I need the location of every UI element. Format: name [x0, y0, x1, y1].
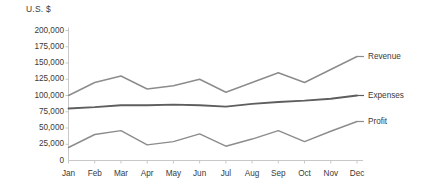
- line-chart: U.S. $ 025,00050,00075,000100,000125,000…: [0, 0, 425, 194]
- series-lines: [69, 57, 365, 148]
- axis-tick-marks: [66, 31, 358, 164]
- plot-area: [0, 0, 425, 194]
- series-line-profit: [69, 122, 358, 148]
- series-line-revenue: [69, 57, 358, 96]
- series-line-expenses: [69, 96, 358, 109]
- series-label-revenue: Revenue: [368, 52, 401, 60]
- series-label-expenses: Expenses: [368, 91, 404, 99]
- axis-lines: [69, 28, 364, 161]
- series-label-profit: Profit: [368, 117, 387, 125]
